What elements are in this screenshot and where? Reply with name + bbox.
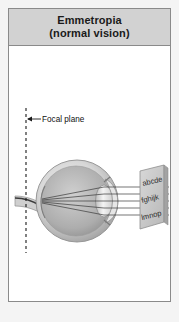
focal-plane-label: Focal plane (42, 115, 84, 124)
page-subtitle: (normal vision) (49, 27, 129, 40)
figure-plate: Emmetropia (normal vision) (8, 8, 171, 302)
page-title: Emmetropia (57, 14, 122, 27)
eye-chart: abcde fghijk lmnop (140, 165, 168, 229)
eye-diagram-svg: abcde fghijk lmnop (9, 46, 169, 301)
figure-title-bar: Emmetropia (normal vision) (9, 9, 170, 46)
diagram-canvas: abcde fghijk lmnop Focal plane (9, 46, 170, 301)
emmetropia-figure: Emmetropia (normal vision) (0, 0, 179, 322)
arrow-left-icon (27, 117, 32, 122)
eye-chart-edge (164, 165, 168, 225)
